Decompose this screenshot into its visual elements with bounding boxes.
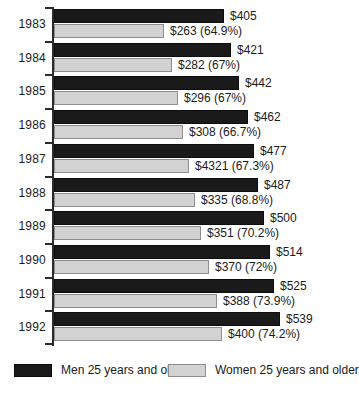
bar-value-label-men-1991: $525 [274, 279, 307, 293]
year-label-1987: 1987 [0, 152, 46, 166]
bar-value-label-women-1989: $351 (70.2%) [201, 226, 279, 240]
bar-value-label-men-1990: $514 [270, 245, 303, 259]
bar-value-label-women-1992: $400 (74.2%) [222, 327, 300, 341]
bar-value-label-women-1990: $370 (72%) [209, 260, 277, 274]
bar-women-1988 [54, 193, 195, 207]
bar-value-label-men-1986: $462 [248, 110, 281, 124]
bar-row-women-1988: $335 (68.8%) [54, 193, 345, 207]
bar-row-men-1988: $487 [54, 178, 345, 192]
bar-row-women-1987: $4321 (67.3%) [54, 159, 345, 173]
year-label-1985: 1985 [0, 84, 46, 98]
bar-row-men-1992: $539 [54, 312, 345, 326]
bar-value-label-men-1987: $477 [254, 144, 287, 158]
axis-tick [45, 209, 53, 211]
bar-value-label-women-1985: $296 (67%) [178, 91, 246, 105]
bar-row-men-1983: $405 [54, 9, 345, 23]
bar-men-1990 [54, 245, 270, 259]
axis-tick [45, 142, 53, 144]
bar-value-label-men-1984: $421 [231, 43, 264, 57]
bar-value-label-women-1984: $282 (67%) [172, 58, 240, 72]
bar-row-men-1985: $442 [54, 76, 345, 90]
axis-tick [45, 277, 53, 279]
bar-men-1989 [54, 211, 264, 225]
axis-tick [45, 74, 53, 76]
bar-women-1985 [54, 91, 178, 105]
bar-women-1986 [54, 125, 183, 139]
bar-row-men-1990: $514 [54, 245, 345, 259]
bar-men-1984 [54, 43, 231, 57]
legend-swatch-women-icon [168, 364, 206, 377]
bar-row-women-1992: $400 (74.2%) [54, 327, 345, 341]
year-label-1988: 1988 [0, 186, 46, 200]
bar-value-label-women-1988: $335 (68.8%) [195, 193, 273, 207]
bar-women-1987 [54, 159, 189, 173]
bar-row-women-1983: $263 (64.9%) [54, 24, 345, 38]
legend-label-women: Women 25 years and older [215, 363, 359, 377]
plot-area: 1983$405$263 (64.9%)1984$421$282 (67%)19… [0, 0, 345, 352]
bar-women-1983 [54, 24, 164, 38]
year-label-1983: 1983 [0, 17, 46, 31]
axis-tick [45, 108, 53, 110]
bar-value-label-men-1989: $500 [264, 211, 297, 225]
axis-tick [45, 343, 53, 345]
bar-women-1992 [54, 327, 222, 341]
axis-tick [45, 176, 53, 178]
bar-row-men-1991: $525 [54, 279, 345, 293]
bar-value-label-women-1983: $263 (64.9%) [164, 24, 242, 38]
bar-row-women-1985: $296 (67%) [54, 91, 345, 105]
bar-women-1990 [54, 260, 209, 274]
bar-value-label-men-1985: $442 [239, 76, 272, 90]
bar-men-1991 [54, 279, 274, 293]
legend-item-women: Women 25 years and older [168, 360, 359, 380]
year-label-1986: 1986 [0, 118, 46, 132]
bar-men-1985 [54, 76, 239, 90]
chart-legend: Men 25 years and older Women 25 years an… [0, 360, 345, 384]
legend-swatch-men-icon [14, 364, 52, 377]
axis-tick [45, 41, 53, 43]
bar-row-men-1987: $477 [54, 144, 345, 158]
bar-men-1987 [54, 144, 254, 158]
bar-value-label-women-1991: $388 (73.9%) [217, 294, 295, 308]
bar-row-women-1986: $308 (66.7%) [54, 125, 345, 139]
year-label-1984: 1984 [0, 51, 46, 65]
year-label-1989: 1989 [0, 219, 46, 233]
bar-value-label-men-1983: $405 [224, 9, 257, 23]
bar-men-1992 [54, 312, 280, 326]
axis-tick [45, 310, 53, 312]
year-label-1992: 1992 [0, 320, 46, 334]
bar-row-women-1991: $388 (73.9%) [54, 294, 345, 308]
bar-row-men-1984: $421 [54, 43, 345, 57]
bar-row-men-1989: $500 [54, 211, 345, 225]
bar-women-1984 [54, 58, 172, 72]
year-label-1990: 1990 [0, 253, 46, 267]
legend-item-men: Men 25 years and older [14, 360, 187, 380]
bar-men-1983 [54, 9, 224, 23]
bar-women-1991 [54, 294, 217, 308]
bar-men-1988 [54, 178, 258, 192]
bar-row-men-1986: $462 [54, 110, 345, 124]
bar-value-label-men-1992: $539 [280, 312, 313, 326]
axis-tick [45, 7, 53, 9]
bar-value-label-women-1986: $308 (66.7%) [183, 125, 261, 139]
bar-men-1986 [54, 110, 248, 124]
bar-women-1989 [54, 226, 201, 240]
bar-row-women-1989: $351 (70.2%) [54, 226, 345, 240]
year-label-1991: 1991 [0, 287, 46, 301]
bar-row-women-1990: $370 (72%) [54, 260, 345, 274]
axis-tick [45, 243, 53, 245]
bar-value-label-women-1987: $4321 (67.3%) [189, 159, 274, 173]
bar-row-women-1984: $282 (67%) [54, 58, 345, 72]
bar-value-label-men-1988: $487 [258, 178, 291, 192]
